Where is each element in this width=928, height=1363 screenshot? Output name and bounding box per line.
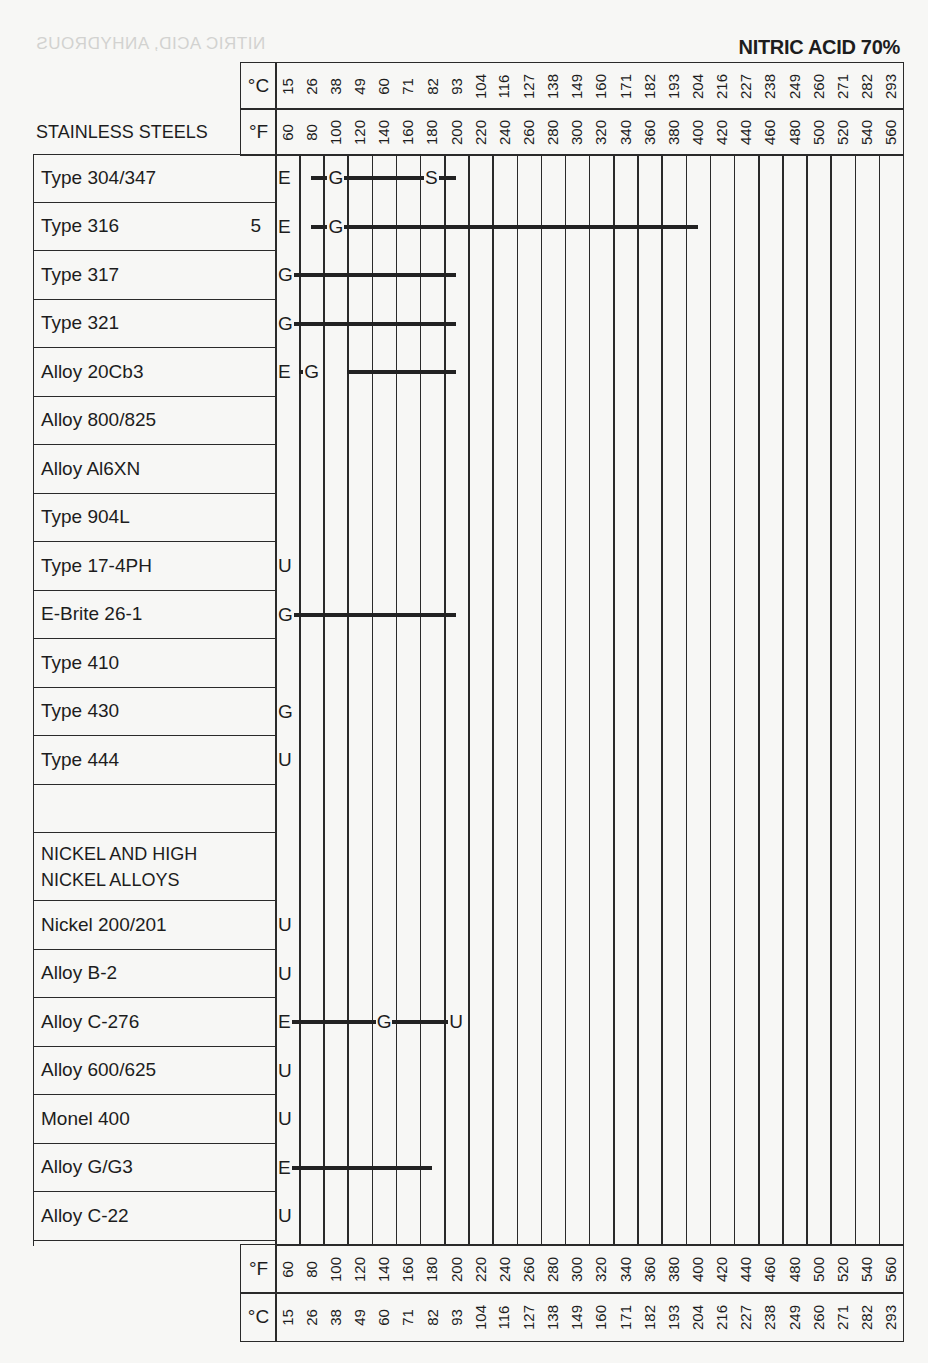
fahrenheit-tick: 460 xyxy=(758,108,782,156)
fahrenheit-tick: 340 xyxy=(613,108,637,156)
fahrenheit-tick: 260 xyxy=(517,1244,541,1294)
grid-line xyxy=(758,154,760,1246)
fahrenheit-tick: 140 xyxy=(372,108,396,156)
celsius-tick: 293 xyxy=(879,62,903,110)
rating-mark-e: E xyxy=(277,167,292,189)
material-row-label: Type 3165 xyxy=(33,203,275,252)
fahrenheit-tick: 220 xyxy=(468,108,492,156)
rating-mark-g: G xyxy=(277,604,294,626)
celsius-tick: 15 xyxy=(275,1292,299,1342)
material-row-label: Alloy Al6XN xyxy=(33,445,275,494)
material-row-label: Alloy G/G3 xyxy=(33,1144,275,1193)
celsius-tick: 38 xyxy=(323,62,347,110)
celsius-tick: 171 xyxy=(613,62,637,110)
fahrenheit-tick: 300 xyxy=(565,1244,589,1294)
celsius-tick: 249 xyxy=(782,62,806,110)
rating-mark-u: U xyxy=(277,749,293,771)
material-row-label: Type 17-4PH xyxy=(33,542,275,591)
grid-line xyxy=(372,154,374,1246)
material-row-label: E-Brite 26-1 xyxy=(33,591,275,640)
fahrenheit-tick: 80 xyxy=(299,1244,323,1294)
rating-range-bar xyxy=(384,1020,456,1024)
celsius-tick: 260 xyxy=(806,1292,830,1342)
celsius-tick: 60 xyxy=(372,62,396,110)
rating-mark-u: U xyxy=(277,1060,293,1082)
grid-line xyxy=(734,154,736,1246)
celsius-tick: 38 xyxy=(323,1292,347,1342)
grid-line xyxy=(806,154,808,1246)
material-row-label xyxy=(33,785,275,834)
material-row-label: Nickel 200/201 xyxy=(33,901,275,950)
fahrenheit-tick: 100 xyxy=(323,1244,347,1294)
celsius-unit-bottom: °C xyxy=(240,1292,277,1342)
grid-line xyxy=(347,154,349,1246)
celsius-tick: 82 xyxy=(420,1292,444,1342)
section-title-stainless: STAINLESS STEELS xyxy=(36,122,208,143)
grid-line xyxy=(686,154,688,1246)
grid-line xyxy=(420,154,422,1246)
grid-line xyxy=(613,154,615,1246)
celsius-tick: 160 xyxy=(589,62,613,110)
celsius-tick: 49 xyxy=(347,62,371,110)
rating-range-bar xyxy=(289,613,456,617)
fahrenheit-tick: 80 xyxy=(299,108,323,156)
celsius-tick: 116 xyxy=(492,1292,516,1342)
material-row-label: Monel 400 xyxy=(33,1095,275,1144)
fahrenheit-tick: 460 xyxy=(758,1244,782,1294)
celsius-tick: 26 xyxy=(299,1292,323,1342)
celsius-tick: 227 xyxy=(734,62,758,110)
fahrenheit-tick: 60 xyxy=(275,108,299,156)
fahrenheit-tick: 100 xyxy=(323,108,347,156)
fahrenheit-tick: 380 xyxy=(661,1244,685,1294)
material-row-label: Type 444 xyxy=(33,736,275,785)
fahrenheit-tick: 120 xyxy=(347,1244,371,1294)
fahrenheit-tick: 200 xyxy=(444,1244,468,1294)
celsius-tick: 204 xyxy=(686,1292,710,1342)
material-row-label: Alloy C-276 xyxy=(33,998,275,1047)
rating-mark-u: U xyxy=(277,1108,293,1130)
material-row-label: Type 317 xyxy=(33,251,275,300)
celsius-tick: 193 xyxy=(661,1292,685,1342)
fahrenheit-tick: 360 xyxy=(637,1244,661,1294)
celsius-tick: 160 xyxy=(589,1292,613,1342)
grid-line xyxy=(879,154,881,1246)
rating-mark-e: E xyxy=(277,216,292,238)
celsius-tick: 193 xyxy=(661,62,685,110)
rating-mark-g: G xyxy=(327,167,344,189)
celsius-tick: 71 xyxy=(396,62,420,110)
fahrenheit-tick: 320 xyxy=(589,1244,613,1294)
celsius-tick: 93 xyxy=(444,62,468,110)
fahrenheit-tick: 140 xyxy=(372,1244,396,1294)
celsius-tick: 138 xyxy=(541,62,565,110)
celsius-tick: 104 xyxy=(468,62,492,110)
fahrenheit-tick: 420 xyxy=(710,108,734,156)
rating-range-bar xyxy=(347,370,456,374)
celsius-tick: 49 xyxy=(347,1292,371,1342)
rating-mark-u: U xyxy=(277,1205,293,1227)
fahrenheit-tick: 420 xyxy=(710,1244,734,1294)
material-row-label: Type 410 xyxy=(33,639,275,688)
fahrenheit-tick: 240 xyxy=(492,108,516,156)
rating-range-bar xyxy=(289,273,456,277)
fahrenheit-tick: 120 xyxy=(347,108,371,156)
fahrenheit-tick: 540 xyxy=(855,108,879,156)
material-row-label: Type 321 xyxy=(33,300,275,349)
rating-range-bar xyxy=(289,322,456,326)
rating-mark-u: U xyxy=(277,555,293,577)
celsius-tick: 249 xyxy=(782,1292,806,1342)
fahrenheit-tick: 160 xyxy=(396,108,420,156)
rating-mark-g: G xyxy=(303,361,320,383)
celsius-tick: 138 xyxy=(541,1292,565,1342)
celsius-unit-top: °C xyxy=(240,62,277,110)
section-title-nickel: NICKEL AND HIGHNICKEL ALLOYS xyxy=(33,833,275,901)
fahrenheit-tick: 200 xyxy=(444,108,468,156)
grid-line xyxy=(396,154,398,1246)
fahrenheit-tick: 280 xyxy=(541,108,565,156)
celsius-tick: 149 xyxy=(565,1292,589,1342)
fahrenheit-tick: 540 xyxy=(855,1244,879,1294)
grid-line xyxy=(541,154,543,1246)
fahrenheit-tick: 560 xyxy=(879,108,903,156)
fahrenheit-tick: 260 xyxy=(517,108,541,156)
fahrenheit-tick: 480 xyxy=(782,1244,806,1294)
celsius-tick: 271 xyxy=(830,62,854,110)
